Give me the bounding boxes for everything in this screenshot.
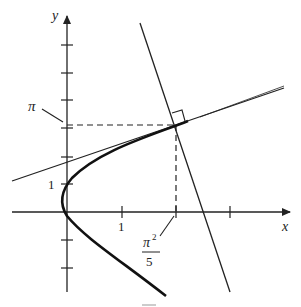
graph: y x 1 π 1 π 2 5 xyxy=(0,0,301,307)
x-axis: x xyxy=(12,206,290,234)
y-tick-label-1: 1 xyxy=(48,177,55,192)
svg-text:2: 2 xyxy=(152,232,157,242)
svg-text:π: π xyxy=(143,235,151,250)
y-tick-label-pi: π xyxy=(28,98,36,114)
parabola xyxy=(62,121,188,296)
tangent-line xyxy=(12,88,284,181)
x-tick-label-pi-squared-over-5: π 2 5 xyxy=(142,216,174,269)
y-axis-label: y xyxy=(50,8,59,23)
y-axis: y xyxy=(50,8,73,292)
right-angle-marker xyxy=(172,110,185,121)
x-tick-label-1: 1 xyxy=(118,219,125,234)
x-axis-label: x xyxy=(281,219,289,234)
svg-text:5: 5 xyxy=(146,254,153,269)
pi-pointer xyxy=(42,109,63,122)
